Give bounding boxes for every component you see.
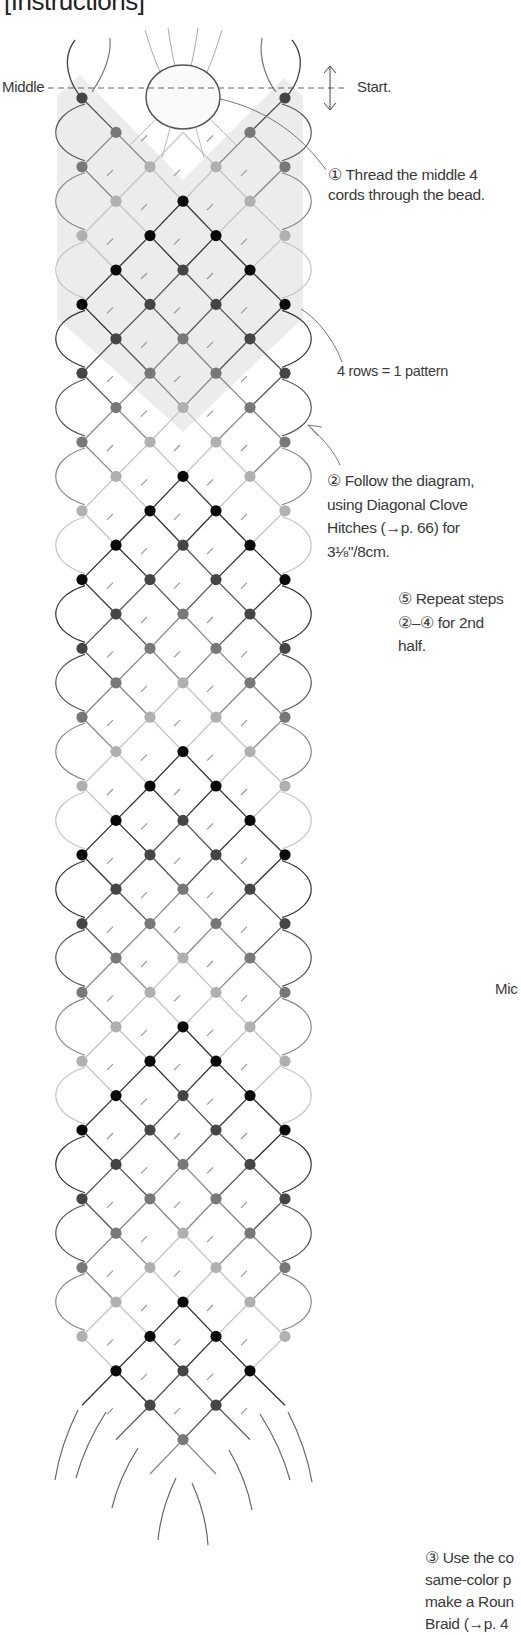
knot-dot: [177, 1365, 188, 1376]
knot-dot: [279, 918, 290, 929]
step5-note: ⑤ Repeat steps ②–④ for 2nd half.: [398, 587, 503, 658]
knot-dot: [110, 471, 121, 482]
knot-dot: [279, 299, 290, 310]
knot-dot: [144, 643, 155, 654]
bead-icon: [146, 65, 220, 129]
knot-dot: [244, 540, 255, 551]
knot-dot: [244, 1228, 255, 1239]
knot-dot: [110, 815, 121, 826]
knot-dot: [210, 712, 221, 723]
knot-dot: [144, 1262, 155, 1273]
knot-dot: [210, 436, 221, 447]
knot-dot: [144, 1193, 155, 1204]
knot-dot: [244, 402, 255, 413]
knot-dot: [110, 746, 121, 757]
knot-dot: [244, 608, 255, 619]
end-cord-tails: [55, 1410, 312, 1545]
knot-dot: [210, 161, 221, 172]
knot-dot: [177, 1159, 188, 1170]
knot-dot: [279, 92, 290, 103]
knot-dot: [110, 608, 121, 619]
knot-dot: [144, 161, 155, 172]
knot-dot: [279, 1262, 290, 1273]
knot-dot: [144, 780, 155, 791]
start-label: Start.: [357, 78, 391, 95]
step3-note: ③ Use the co same-color p make a Roun Br…: [425, 1547, 514, 1635]
knot-dot: [110, 1296, 121, 1307]
knot-dot: [210, 643, 221, 654]
knot-dot: [144, 712, 155, 723]
knot-dot: [177, 333, 188, 344]
step2-note: ② Follow the diagram, using Diagonal Clo…: [327, 469, 474, 563]
knot-dot: [76, 712, 87, 723]
knot-dot: [110, 1159, 121, 1170]
knot-dot: [110, 402, 121, 413]
knot-dot: [177, 1296, 188, 1307]
knot-dot: [210, 1331, 221, 1342]
knot-dot: [144, 849, 155, 860]
knot-dot: [144, 1124, 155, 1135]
knot-dot: [177, 1434, 188, 1445]
knot-dot: [177, 1090, 188, 1101]
knot-dot: [110, 1021, 121, 1032]
knot-dot: [110, 333, 121, 344]
knot-dot: [76, 780, 87, 791]
knot-dot: [76, 436, 87, 447]
knot-dot: [144, 1400, 155, 1411]
knot-dot: [76, 849, 87, 860]
knot-dot: [110, 127, 121, 138]
knot-dot: [244, 815, 255, 826]
knot-dot: [177, 540, 188, 551]
knot-dot: [177, 1228, 188, 1239]
knot-dot: [244, 1159, 255, 1170]
knot-dot: [244, 471, 255, 482]
knot-dot: [110, 677, 121, 688]
knot-dot: [279, 574, 290, 585]
pattern-note: 4 rows = 1 pattern: [337, 362, 448, 382]
knot-dot: [76, 230, 87, 241]
knot-dot: [110, 540, 121, 551]
knot-dot: [279, 230, 290, 241]
knot-dot: [210, 1193, 221, 1204]
knot-dot: [210, 780, 221, 791]
knot-dot: [144, 505, 155, 516]
step1-note: ① Thread the middle 4 cords through the …: [328, 165, 485, 204]
knot-dot: [244, 333, 255, 344]
knot-dot: [210, 1124, 221, 1135]
knot-dot: [279, 987, 290, 998]
knot-dot: [76, 505, 87, 516]
knot-dot: [110, 264, 121, 275]
knot-dot: [76, 161, 87, 172]
knot-dot: [210, 918, 221, 929]
knot-dot: [110, 1228, 121, 1239]
knot-dot: [210, 1056, 221, 1067]
knot-dot: [76, 368, 87, 379]
knot-dot: [144, 368, 155, 379]
knot-dot: [177, 264, 188, 275]
knot-dot: [76, 299, 87, 310]
knot-dot: [244, 127, 255, 138]
knot-dot: [177, 952, 188, 963]
knot-dot: [210, 1262, 221, 1273]
knot-dot: [76, 1331, 87, 1342]
knot-dot: [76, 987, 87, 998]
knot-dot: [177, 471, 188, 482]
knot-dot: [76, 918, 87, 929]
knot-dot: [279, 1056, 290, 1067]
knot-dot: [76, 574, 87, 585]
knot-dot: [144, 574, 155, 585]
knot-dot: [279, 1124, 290, 1135]
knot-dot: [244, 1021, 255, 1032]
knot-dot: [279, 1193, 290, 1204]
knot-dot: [144, 987, 155, 998]
middle-label-right: Mic: [495, 980, 517, 997]
knot-dot: [144, 299, 155, 310]
knot-dot: [244, 1090, 255, 1101]
pattern-leader: [301, 309, 342, 362]
knot-dot: [144, 918, 155, 929]
knot-dot: [244, 952, 255, 963]
knot-dot: [279, 849, 290, 860]
knot-dot: [110, 196, 121, 207]
knot-dot: [76, 1262, 87, 1273]
knot-dot: [279, 780, 290, 791]
